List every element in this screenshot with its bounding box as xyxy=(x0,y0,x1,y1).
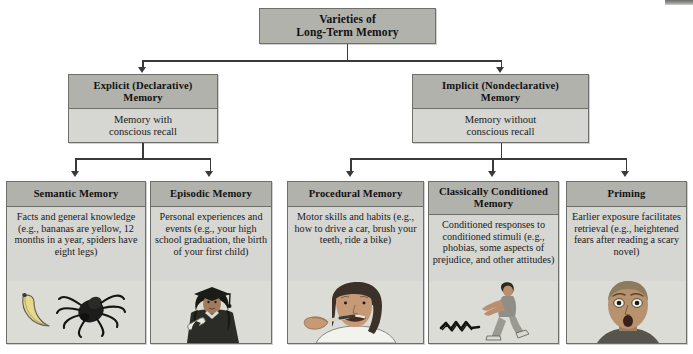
connector-to-semantic xyxy=(75,158,77,172)
procedural-body: Motor skills and habits (e.g., how to dr… xyxy=(288,207,423,281)
priming-header: Priming xyxy=(567,182,686,207)
root-title-line2: Long-Term Memory xyxy=(296,26,398,38)
connector-to-procedural xyxy=(350,158,352,172)
frightened-face-illustration xyxy=(567,281,686,343)
arrow-to-priming xyxy=(621,171,629,177)
arrow-to-semantic xyxy=(71,171,79,177)
person-recoiling-from-snake-illustration xyxy=(429,281,558,343)
node-varieties-of-long-term-memory[interactable]: Varieties of Long-Term Memory xyxy=(259,8,436,44)
classical-header-line2: Memory xyxy=(474,198,513,209)
connector-root-stem xyxy=(347,44,349,61)
node-episodic-memory[interactable]: Episodic Memory Personal experiences and… xyxy=(150,181,272,344)
node-semantic-memory[interactable]: Semantic Memory Facts and general knowle… xyxy=(6,181,146,344)
explicit-header-line2: Memory xyxy=(123,92,162,103)
root-title: Varieties of Long-Term Memory xyxy=(260,9,435,43)
node-explicit-declarative-memory[interactable]: Explicit (Declarative) Memory Memory wit… xyxy=(68,74,218,143)
node-priming[interactable]: Priming Earlier exposure facilitates ret… xyxy=(566,181,687,344)
classical-body: Conditioned responses to conditioned sti… xyxy=(429,215,558,281)
implicit-body-line2: conscious recall xyxy=(467,126,535,137)
implicit-header-line1: Implicit (Nondeclarative) xyxy=(442,80,559,91)
explicit-body-line2: conscious recall xyxy=(109,126,177,137)
graduate-in-cap-and-gown-illustration xyxy=(151,281,271,343)
connector-implicit-stem xyxy=(501,143,503,159)
implicit-body: Memory without conscious recall xyxy=(413,109,588,143)
explicit-body-line1: Memory with xyxy=(114,114,172,125)
implicit-body-line1: Memory without xyxy=(465,114,537,125)
node-classically-conditioned-memory[interactable]: Classically Conditioned Memory Condition… xyxy=(428,181,559,344)
priming-body: Earlier exposure facilitates retrieval (… xyxy=(567,207,686,281)
arrow-to-implicit xyxy=(496,67,504,73)
semantic-body: Facts and general knowledge (e.g., banan… xyxy=(7,207,145,281)
semantic-header: Semantic Memory xyxy=(7,182,145,207)
classical-header-line1: Classically Conditioned xyxy=(439,186,548,197)
connector-implicit-bar xyxy=(350,158,627,160)
connector-to-priming xyxy=(626,158,628,172)
arrow-to-classical xyxy=(488,171,496,177)
explicit-header-line1: Explicit (Declarative) xyxy=(94,80,193,91)
episodic-header: Episodic Memory xyxy=(151,182,271,207)
procedural-header: Procedural Memory xyxy=(288,182,423,207)
connector-to-episodic xyxy=(210,158,212,172)
diagram-canvas: Varieties of Long-Term Memory Explicit (… xyxy=(0,0,693,354)
connector-explicit-stem xyxy=(142,143,144,159)
arrow-to-procedural xyxy=(346,171,354,177)
classical-header: Classically Conditioned Memory xyxy=(429,182,558,215)
root-title-line1: Varieties of xyxy=(319,13,376,25)
explicit-body: Memory with conscious recall xyxy=(69,109,217,143)
banana-and-spider-illustration xyxy=(7,281,145,343)
person-brushing-teeth-illustration xyxy=(288,281,423,343)
node-procedural-memory[interactable]: Procedural Memory Motor skills and habit… xyxy=(287,181,424,344)
arrow-to-explicit xyxy=(138,67,146,73)
node-implicit-nondeclarative-memory[interactable]: Implicit (Nondeclarative) Memory Memory … xyxy=(412,74,589,143)
arrow-to-episodic xyxy=(205,171,213,177)
connector-explicit-bar xyxy=(75,158,211,160)
implicit-header: Implicit (Nondeclarative) Memory xyxy=(413,75,588,109)
episodic-body: Personal experiences and events (e.g., y… xyxy=(151,207,271,281)
connector-to-classical xyxy=(492,158,494,172)
explicit-header: Explicit (Declarative) Memory xyxy=(69,75,217,109)
connector-root-bar xyxy=(142,60,502,62)
implicit-header-line2: Memory xyxy=(481,92,520,103)
top-right-scan-artifact xyxy=(665,0,693,5)
